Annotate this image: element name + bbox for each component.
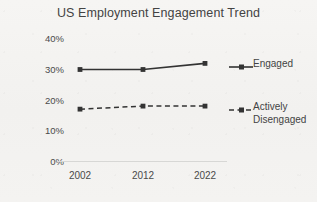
x-axis-tick-label-2022: 2022 (179, 170, 231, 182)
legend-label-actively-disengaged: Actively Disengaged (253, 101, 306, 126)
legend-line-dashed-icon (229, 102, 253, 114)
x-axis-tick-label-2012: 2012 (117, 170, 169, 182)
legend-item-engaged[interactable]: Engaged (229, 58, 293, 71)
chart-container: US Employment Engagement Trend 40% 30% 2… (0, 0, 317, 202)
legend-item-actively-disengaged[interactable]: Actively Disengaged (229, 101, 306, 126)
legend-line-solid-icon (229, 59, 253, 71)
x-axis-tick-label-2002: 2002 (54, 170, 106, 182)
legend-label-engaged: Engaged (253, 58, 293, 71)
